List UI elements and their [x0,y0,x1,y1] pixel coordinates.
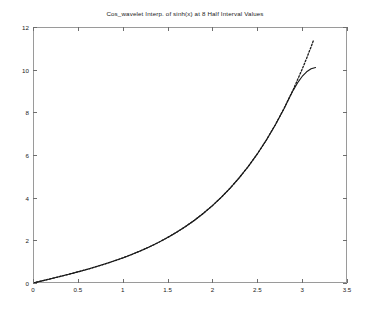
y-tick-label-1: 2 [26,237,29,244]
x-tick-label-1: 0.5 [74,286,83,293]
x-tick-mark-top-2 [123,27,124,31]
y-tick-label-4: 8 [26,109,29,116]
y-tick-label-0: 0 [26,280,29,287]
y-tick-mark-right-0 [343,283,347,284]
chart-title: Cos_wavelet Interp. of sinh(x) at 8 Half… [0,10,370,17]
x-tick-label-0: 0 [31,286,34,293]
x-tick-mark-top-1 [78,27,79,31]
series-group [33,40,316,283]
x-tick-mark-2 [123,279,124,283]
x-tick-label-6: 3 [300,286,303,293]
y-tick-mark-0 [33,283,37,284]
y-tick-mark-2 [33,198,37,199]
x-tick-label-2: 1 [121,286,124,293]
x-tick-mark-1 [78,279,79,283]
series-line-1 [33,68,316,283]
y-tick-mark-5 [33,70,37,71]
y-tick-mark-1 [33,240,37,241]
y-tick-label-3: 6 [26,152,29,159]
x-tick-mark-top-5 [257,27,258,31]
y-tick-mark-right-4 [343,112,347,113]
x-tick-mark-7 [347,279,348,283]
x-tick-mark-top-6 [302,27,303,31]
y-tick-mark-3 [33,155,37,156]
y-tick-mark-right-2 [343,198,347,199]
figure-canvas: Cos_wavelet Interp. of sinh(x) at 8 Half… [0,0,370,320]
series-line-0 [33,40,314,283]
x-tick-label-4: 2 [211,286,214,293]
plot-area [33,27,347,283]
plot-series-svg [33,27,347,283]
y-tick-mark-right-6 [343,27,347,28]
y-tick-mark-4 [33,112,37,113]
x-tick-mark-6 [302,279,303,283]
x-tick-mark-5 [257,279,258,283]
x-tick-mark-top-4 [212,27,213,31]
x-tick-label-7: 3.5 [343,286,352,293]
y-tick-label-2: 4 [26,194,29,201]
x-tick-label-5: 2.5 [253,286,262,293]
x-tick-label-3: 1.5 [163,286,172,293]
y-tick-mark-right-3 [343,155,347,156]
x-tick-mark-3 [168,279,169,283]
y-tick-mark-6 [33,27,37,28]
y-tick-label-5: 10 [22,66,29,73]
x-tick-mark-top-3 [168,27,169,31]
x-tick-mark-4 [212,279,213,283]
x-tick-mark-top-7 [347,27,348,31]
y-tick-mark-right-5 [343,70,347,71]
y-tick-label-6: 12 [22,24,29,31]
bottom-caption [6,308,364,317]
y-tick-mark-right-1 [343,240,347,241]
